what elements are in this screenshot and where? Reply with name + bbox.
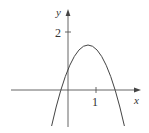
x-axis [11,87,141,93]
parabola-curve [52,45,125,126]
x-axis-label: x [133,94,139,106]
x-tick-label-1: 1 [92,95,98,109]
y-axis-label: y [55,6,61,18]
y-tick-label-2: 2 [55,26,61,40]
parabola-plot: y 2 1 x [0,0,149,133]
y-axis [65,9,71,127]
y-axis-arrow-icon [66,9,71,16]
x-axis-arrow-icon [134,88,141,93]
